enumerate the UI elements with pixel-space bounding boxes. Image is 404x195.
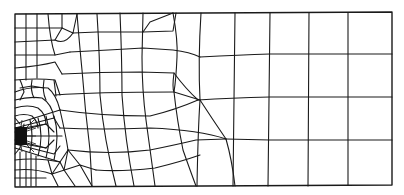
finite-element-mesh bbox=[0, 0, 404, 195]
singular-point-refinement bbox=[15, 127, 27, 145]
mesh-lines bbox=[15, 12, 392, 187]
